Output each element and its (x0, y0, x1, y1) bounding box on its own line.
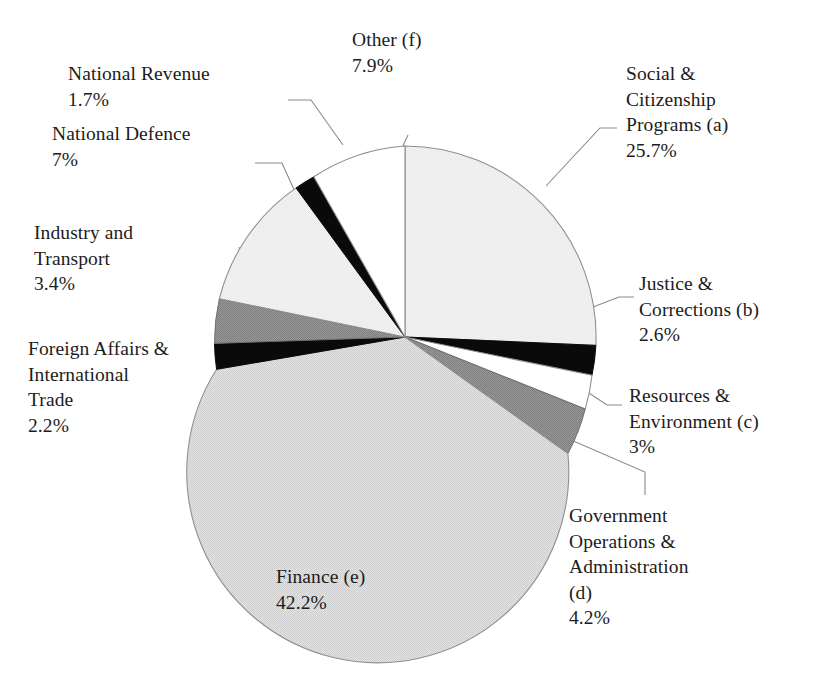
label-finance: Finance (e) 42.2% (276, 564, 476, 615)
label-other: Other (f) 7.9% (352, 27, 542, 78)
label-national-revenue: National Revenue 1.7% (68, 61, 298, 112)
label-justice-corrections: Justice & Corrections (b) 2.6% (639, 271, 813, 348)
leader-social (546, 128, 617, 186)
label-government-operations: Government Operations & Administration (… (569, 503, 784, 631)
label-resources-environment: Resources & Environment (c) 3% (629, 383, 813, 460)
label-social-citizenship: Social & Citizenship Programs (a) 25.7% (626, 61, 811, 163)
label-national-defence: National Defence 7% (52, 121, 282, 172)
pie-chart: Other (f) 7.9% National Revenue 1.7% Nat… (0, 0, 813, 679)
label-foreign-affairs: Foreign Affairs & International Trade 2.… (28, 336, 243, 438)
slice-social-citizenship-programs (405, 146, 596, 345)
label-industry-transport: Industry and Transport 3.4% (34, 220, 234, 297)
